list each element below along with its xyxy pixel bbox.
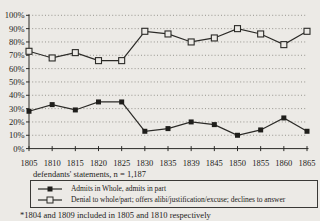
legend-item-admits: Admits in Whole, admits in part bbox=[38, 183, 315, 194]
legend-label-denial: Denial to whole/part; offers alibi/justi… bbox=[71, 195, 285, 204]
footnote: *1804 and 1809 included in 1805 and 1810… bbox=[20, 210, 211, 220]
y-axis-label: 10% bbox=[9, 130, 25, 140]
data-point-marker bbox=[189, 119, 194, 124]
x-axis-label: 1865 bbox=[299, 158, 316, 168]
data-point-marker bbox=[281, 42, 287, 48]
data-point-marker bbox=[212, 122, 217, 127]
x-axis-label: 1855 bbox=[252, 158, 269, 168]
data-point-marker bbox=[304, 28, 310, 34]
data-point-marker bbox=[119, 99, 124, 104]
data-point-marker bbox=[27, 109, 32, 114]
data-point-marker bbox=[281, 115, 286, 120]
data-point-marker bbox=[26, 48, 32, 54]
data-point-marker bbox=[165, 31, 171, 37]
y-axis-label: 30% bbox=[9, 104, 25, 114]
data-point-marker bbox=[211, 35, 217, 41]
y-axis-label: 60% bbox=[9, 64, 25, 74]
y-axis-label: 40% bbox=[9, 90, 25, 100]
x-axis-label: 1820 bbox=[90, 158, 107, 168]
data-point-marker bbox=[235, 26, 241, 32]
x-axis-title: defendants' statements, n = 1,187 bbox=[33, 169, 146, 179]
y-axis-label: 50% bbox=[9, 77, 25, 87]
legend: Admits in Whole, admits in part Denial t… bbox=[30, 180, 318, 208]
chart-figure: 0%10%20%30%40%50%60%70%80%90%100%1805181… bbox=[0, 0, 320, 221]
y-axis-label: 20% bbox=[9, 117, 25, 127]
data-point-marker bbox=[96, 99, 101, 104]
data-point-marker bbox=[50, 102, 55, 107]
x-axis-label: 1835 bbox=[160, 158, 177, 168]
open-square-marker-icon bbox=[38, 195, 62, 205]
x-axis-label: 1815 bbox=[67, 158, 84, 168]
data-point-marker bbox=[188, 39, 194, 45]
data-point-marker bbox=[142, 129, 147, 134]
data-point-marker bbox=[258, 31, 264, 37]
x-axis-label: 1825 bbox=[113, 158, 130, 168]
line-chart-plot: 0%10%20%30%40%50%60%70%80%90%100%1805181… bbox=[0, 0, 320, 168]
data-point-marker bbox=[142, 28, 148, 34]
y-axis-label: 100% bbox=[5, 10, 25, 20]
y-axis-label: 0% bbox=[13, 144, 24, 154]
legend-item-denial: Denial to whole/part; offers alibi/justi… bbox=[38, 194, 315, 205]
data-point-marker bbox=[166, 126, 171, 131]
data-point-marker bbox=[72, 50, 78, 56]
y-axis-label: 70% bbox=[9, 50, 25, 60]
x-axis-label: 1850 bbox=[229, 158, 246, 168]
y-axis-label: 80% bbox=[9, 37, 25, 47]
data-point-marker bbox=[49, 55, 55, 61]
data-point-marker bbox=[73, 107, 78, 112]
legend-label-admits: Admits in Whole, admits in part bbox=[71, 184, 166, 193]
x-axis-label: 1805 bbox=[21, 158, 38, 168]
data-point-marker bbox=[119, 58, 125, 64]
x-axis-label: 1810 bbox=[44, 158, 61, 168]
x-axis-label: 1830 bbox=[136, 158, 153, 168]
data-point-marker bbox=[235, 133, 240, 138]
x-axis-label: 1860 bbox=[275, 158, 292, 168]
x-axis-label: 1839 bbox=[183, 158, 200, 168]
y-axis-label: 90% bbox=[9, 24, 25, 34]
data-point-marker bbox=[305, 129, 310, 134]
x-axis-label: 1845 bbox=[206, 158, 223, 168]
data-point-marker bbox=[96, 58, 102, 64]
data-point-marker bbox=[258, 127, 263, 132]
filled-square-marker-icon bbox=[38, 184, 62, 194]
